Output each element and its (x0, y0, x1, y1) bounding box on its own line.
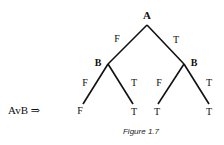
edge-label-left-left: F (82, 77, 88, 88)
edge-label-root-right: T (173, 34, 179, 45)
figure-caption: Figure 1.7 (123, 127, 160, 136)
edge-root-left (108, 25, 147, 64)
edge-label-left-right: T (131, 77, 137, 88)
leaf-label-2: T (131, 106, 137, 117)
leaf-label-4: T (206, 106, 212, 117)
left-b-node-label: B (95, 57, 102, 68)
expression-label: AvB ⇒ (8, 104, 40, 116)
root-node-label: A (143, 9, 151, 21)
edge-right-left (158, 64, 184, 104)
leaf-label-1: F (77, 105, 83, 116)
edge-left-right (108, 64, 133, 104)
edge-label-root-left: F (114, 33, 120, 44)
edge-label-right-right: T (206, 77, 212, 88)
truth-tree-diagram: A F T B B F T F T F T T T AvB ⇒ Figure 1… (0, 0, 224, 145)
right-b-node-label: B (191, 57, 198, 68)
leaf-label-3: T (154, 106, 160, 117)
edge-label-right-left: F (156, 77, 162, 88)
